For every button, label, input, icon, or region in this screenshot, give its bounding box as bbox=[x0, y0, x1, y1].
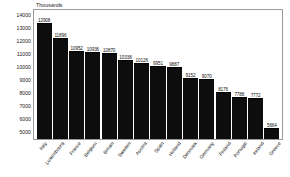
y-axis-tick: 11000 bbox=[17, 51, 31, 57]
bar bbox=[102, 53, 117, 139]
bar-slot: 7788 bbox=[232, 10, 247, 139]
x-axis-label: Italy bbox=[39, 141, 48, 151]
x-axis-label: Spain bbox=[153, 141, 165, 154]
y-axis-tick: 7000 bbox=[19, 103, 31, 109]
y-axis-tick: 12000 bbox=[17, 38, 31, 44]
x-axis-label: Denmark bbox=[182, 141, 198, 160]
bar-slot: 9152 bbox=[183, 10, 198, 139]
y-axis: 1400013000120001100010000900080007000600… bbox=[0, 9, 33, 140]
x-axis-label: Portugal bbox=[233, 141, 248, 158]
bar bbox=[69, 51, 84, 139]
bar-slot: 5664 bbox=[264, 10, 279, 139]
bar-value-label: 5664 bbox=[267, 123, 277, 128]
bar bbox=[53, 38, 68, 139]
bar bbox=[248, 98, 263, 139]
bar-slot: 9887 bbox=[167, 10, 182, 139]
y-axis-tick: 5000 bbox=[19, 129, 31, 135]
x-axis-label: Ireland bbox=[252, 141, 265, 156]
bar bbox=[118, 60, 133, 139]
bar-chart: Thousands 140001300012000110001000090008… bbox=[0, 0, 290, 177]
bar-value-label: 9951 bbox=[153, 61, 163, 66]
bars-container: 1290811896109521093610870103381012699519… bbox=[34, 10, 282, 139]
x-axis: ItalyLuxembourgFranceBelgiumBritainSwede… bbox=[33, 141, 283, 177]
y-axis-tick: 10000 bbox=[17, 64, 31, 70]
bar-value-label: 10952 bbox=[71, 46, 83, 51]
bar-slot: 10338 bbox=[118, 10, 133, 139]
bar bbox=[134, 63, 149, 139]
y-axis-tick: 8000 bbox=[19, 90, 31, 96]
bar-value-label: 8176 bbox=[218, 87, 228, 92]
bar-value-label: 7788 bbox=[234, 92, 244, 97]
bar-value-label: 10870 bbox=[103, 48, 115, 53]
bar-value-label: 12908 bbox=[38, 18, 50, 23]
bar bbox=[264, 128, 279, 139]
bar-value-label: 7772 bbox=[251, 93, 261, 98]
x-axis-label: Belgium bbox=[83, 141, 98, 158]
bar-slot: 10936 bbox=[85, 10, 100, 139]
bar-slot: 11896 bbox=[53, 10, 68, 139]
bar-value-label: 11896 bbox=[54, 33, 66, 38]
x-axis-label: Sweden bbox=[117, 141, 132, 158]
bar-value-label: 10936 bbox=[87, 47, 99, 52]
bar-slot: 10870 bbox=[102, 10, 117, 139]
y-axis-tick: 14000 bbox=[17, 12, 31, 18]
bar bbox=[150, 66, 165, 139]
bar-slot: 8176 bbox=[216, 10, 231, 139]
bar bbox=[199, 79, 214, 139]
y-axis-title: Thousands bbox=[36, 2, 63, 8]
y-axis-tick: 9000 bbox=[19, 77, 31, 83]
x-axis-label: Finland bbox=[218, 141, 232, 157]
y-axis-tick: 6000 bbox=[19, 116, 31, 122]
x-axis-label: France bbox=[68, 141, 81, 156]
x-axis-label: Greece bbox=[268, 141, 282, 157]
bar bbox=[167, 67, 182, 139]
bar-slot: 9951 bbox=[150, 10, 165, 139]
x-axis-label: Germany bbox=[199, 141, 215, 160]
y-axis-tick: 13000 bbox=[17, 25, 31, 31]
plot-area: 1290811896109521093610870103381012699519… bbox=[33, 9, 283, 140]
bar-value-label: 9070 bbox=[202, 74, 212, 79]
x-axis-label: Britain bbox=[102, 141, 114, 155]
bar-slot: 7772 bbox=[248, 10, 263, 139]
bar-value-label: 10126 bbox=[136, 58, 148, 63]
bar bbox=[232, 97, 247, 139]
bar-value-label: 9152 bbox=[186, 73, 196, 78]
bar-value-label: 10338 bbox=[119, 55, 131, 60]
bar bbox=[183, 78, 198, 139]
x-axis-label: Holland bbox=[167, 141, 181, 157]
bar-slot: 9070 bbox=[199, 10, 214, 139]
bar-slot: 12908 bbox=[37, 10, 52, 139]
bar bbox=[85, 52, 100, 139]
bar-value-label: 9887 bbox=[169, 62, 179, 67]
bar bbox=[37, 23, 52, 139]
bar bbox=[216, 92, 231, 139]
x-axis-label: Austria bbox=[135, 141, 148, 156]
bar-slot: 10952 bbox=[69, 10, 84, 139]
bar-slot: 10126 bbox=[134, 10, 149, 139]
